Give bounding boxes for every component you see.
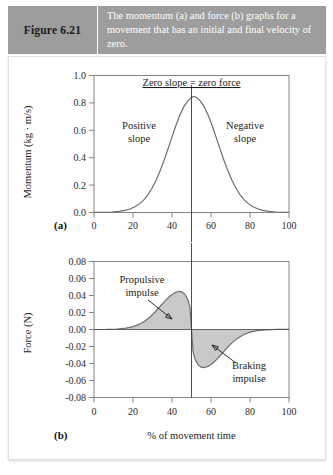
force-xtick-label: 0 xyxy=(92,406,97,417)
force-x-axis-title: % of movement time xyxy=(147,430,236,441)
force-xtick-label: 60 xyxy=(206,406,216,417)
force-ytick-label: 0.00 xyxy=(69,324,87,335)
panel-a-letter: (a) xyxy=(54,219,67,232)
momentum-ytick-label: 0.8 xyxy=(74,97,87,108)
force-xtick-label: 40 xyxy=(167,406,177,417)
force-ytick-label: -0.06 xyxy=(65,375,86,386)
figure-number-cell: Figure 6.21 xyxy=(8,6,98,54)
force-ytick-label: 0.04 xyxy=(69,290,87,301)
momentum-xtick-label: 0 xyxy=(92,220,97,231)
positive-slope-label-line2: slope xyxy=(128,133,151,144)
force-ytick-label: 0.02 xyxy=(69,307,87,318)
negative-slope-label-line1: Negative xyxy=(226,120,264,131)
propulsive-impulse-label-line1: Propulsive xyxy=(120,274,165,285)
force-ytick-label: -0.02 xyxy=(65,341,86,352)
braking-impulse-label-line1: Braking xyxy=(232,360,267,371)
momentum-y-axis-title: Momentum (kg · m/s) xyxy=(22,105,34,199)
momentum-xtick-label: 20 xyxy=(128,220,138,231)
force-ytick-label: -0.04 xyxy=(65,358,86,369)
force-y-tickmarks xyxy=(89,262,94,398)
figure-caption-bar: Figure 6.21 The momentum (a) and force (… xyxy=(8,6,326,54)
negative-slope-label-line2: slope xyxy=(234,133,257,144)
braking-impulse-label-line2: impulse xyxy=(232,373,266,384)
momentum-xtick-label: 60 xyxy=(206,220,216,231)
momentum-ytick-label: 0.6 xyxy=(74,125,87,136)
force-ytick-label: 0.08 xyxy=(69,256,87,267)
force-x-tickmarks xyxy=(94,398,289,403)
force-ytick-label: 0.06 xyxy=(69,273,87,284)
force-chart: Force (N) 0.08 0.06 0.04 0.02 0.00 -0.02… xyxy=(9,243,327,461)
momentum-ytick-label: 0.4 xyxy=(74,152,87,163)
figure-caption-text-cell: The momentum (a) and force (b) graphs fo… xyxy=(98,6,326,54)
force-y-axis-title: Force (N) xyxy=(22,312,34,354)
force-xtick-label: 20 xyxy=(128,406,138,417)
zero-slope-annotation: Zero slope = zero force xyxy=(142,77,240,88)
momentum-ytick-label: 1.0 xyxy=(74,70,87,81)
figure-caption-text: The momentum (a) and force (b) graphs fo… xyxy=(107,9,318,50)
momentum-xtick-label: 100 xyxy=(282,220,297,231)
figure-body-panel: Momentum (kg · m/s) 1.0 0.8 0.6 0.4 0.2 … xyxy=(8,56,326,460)
force-ytick-label: -0.08 xyxy=(65,392,86,403)
figure-page: Figure 6.21 The momentum (a) and force (… xyxy=(0,0,333,475)
momentum-ytick-label: 0.0 xyxy=(74,207,87,218)
momentum-y-tickmarks xyxy=(89,76,94,213)
momentum-ytick-label: 0.2 xyxy=(74,180,87,191)
propulsive-impulse-label-line2: impulse xyxy=(125,287,159,298)
force-xtick-label: 80 xyxy=(245,406,255,417)
panel-b-letter: (b) xyxy=(54,429,68,442)
momentum-xtick-label: 40 xyxy=(167,220,177,231)
figure-number-label: Figure 6.21 xyxy=(24,24,82,36)
force-xtick-label: 100 xyxy=(282,406,297,417)
positive-slope-label-line1: Positive xyxy=(122,120,156,131)
momentum-chart: Momentum (kg · m/s) 1.0 0.8 0.6 0.4 0.2 … xyxy=(9,57,327,242)
momentum-xtick-label: 80 xyxy=(245,220,255,231)
